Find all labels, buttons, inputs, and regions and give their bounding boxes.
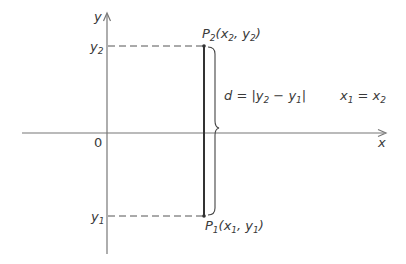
y2-label: y2: [89, 39, 104, 56]
point-p2: [202, 44, 206, 48]
x-axis-label: x: [377, 135, 386, 150]
brace-icon: [208, 47, 219, 215]
p1-label: P1(x1, y1): [205, 218, 264, 235]
y-axis-label: y: [93, 9, 102, 24]
condition-label: x1 = x2: [339, 88, 386, 105]
p2-label: P2(x2, y2): [202, 26, 261, 43]
distance-formula: d = |y2 − y1|: [224, 88, 306, 105]
origin-label: 0: [94, 135, 102, 150]
distance-diagram: y x 0 y2 y1 P2(x2, y2) P1(x1, y1) d = |y…: [0, 0, 406, 264]
y1-label: y1: [90, 209, 104, 226]
